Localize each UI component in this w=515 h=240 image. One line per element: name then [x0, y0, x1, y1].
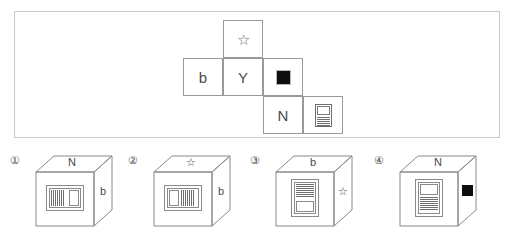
cube-net-panel: ☆ b Y N — [14, 11, 500, 138]
option-1-cube: N b — [32, 152, 116, 232]
option-3-front-face-icon-inner — [294, 182, 316, 214]
document-icon — [315, 104, 332, 127]
option-3-front-face-icon — [291, 179, 319, 217]
option-2-right-face-label: b — [218, 186, 224, 197]
option-4-top-face-label: N — [434, 157, 442, 168]
option-1-front-face-icon-inner — [49, 188, 81, 208]
net-cell-n-label: N — [278, 108, 289, 123]
net-cell-n: N — [263, 96, 303, 134]
option-4-cube: N — [396, 152, 480, 232]
option-1-right-face-label: b — [100, 186, 106, 197]
option-4-front-face-icon — [415, 179, 443, 217]
net-cell-y-label: Y — [238, 70, 248, 85]
option-4-icon-stripes — [420, 197, 438, 212]
option-2-top-face-star-icon: ☆ — [186, 157, 196, 168]
option-1-icon-stripes — [51, 190, 67, 206]
net-cell-y: Y — [223, 58, 263, 96]
option-4-right-face-black-square-icon — [462, 185, 473, 196]
option-2-icon-blank — [169, 190, 179, 206]
black-square-icon — [276, 70, 291, 85]
net-cell-star: ☆ — [223, 20, 263, 58]
net-cell-document — [303, 96, 343, 134]
option-3-right-face-star-icon: ☆ — [338, 186, 348, 197]
option-3-cube: b ☆ — [272, 152, 356, 232]
option-3-top-face-label: b — [310, 157, 316, 168]
option-4[interactable]: ④ N — [374, 150, 494, 238]
option-1-icon-blank — [69, 190, 79, 206]
document-icon-header — [317, 106, 330, 115]
option-3-icon-blank — [296, 201, 314, 212]
option-1-number: ① — [10, 154, 20, 167]
net-cell-b-label: b — [199, 70, 207, 85]
star-icon: ☆ — [237, 32, 250, 47]
option-1[interactable]: ① N b — [10, 150, 130, 238]
option-4-icon-blank — [420, 184, 438, 195]
document-icon-lines — [317, 116, 330, 126]
option-2-cube: ☆ b — [150, 152, 234, 232]
option-2[interactable]: ② ☆ b — [128, 150, 248, 238]
option-2-number: ② — [128, 154, 138, 167]
option-3-number: ③ — [250, 154, 260, 167]
option-2-icon-stripes — [181, 190, 197, 206]
option-3[interactable]: ③ b ☆ — [250, 150, 370, 238]
option-1-front-face-icon — [46, 185, 84, 211]
option-4-front-face-icon-inner — [418, 182, 440, 214]
option-1-top-face-label: N — [68, 157, 76, 168]
net-cell-black-square — [263, 58, 303, 96]
option-3-icon-stripes — [296, 184, 314, 199]
option-2-front-face-icon — [164, 185, 202, 211]
option-4-number: ④ — [374, 154, 384, 167]
option-2-front-face-icon-inner — [167, 188, 199, 208]
net-cell-b: b — [183, 58, 223, 96]
